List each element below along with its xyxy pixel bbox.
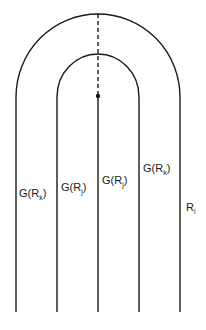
label-g-rk-right: G(Rk): [143, 162, 170, 176]
label-g-rj-right: G(Rj): [102, 174, 127, 189]
center-point: [96, 94, 100, 98]
label-g-rk-left: G(Rk): [19, 187, 46, 201]
label-g-rj-left: G(Rj): [61, 181, 86, 196]
hairpin-diagram: G(Rk) G(Rj) G(Rj) G(Rk) Ri: [0, 0, 206, 330]
label-ri: Ri: [186, 201, 196, 215]
